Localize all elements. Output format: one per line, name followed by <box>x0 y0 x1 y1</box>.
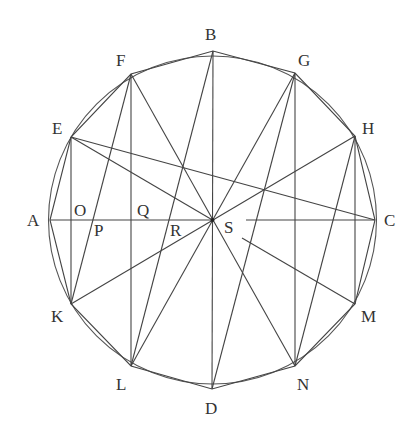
label-m: M <box>361 307 376 326</box>
label-e: E <box>52 119 62 138</box>
label-l: L <box>116 375 126 394</box>
label-s: S <box>224 218 233 237</box>
label-b: B <box>205 25 216 44</box>
center-point-s <box>211 218 215 222</box>
segment-ec <box>71 137 375 220</box>
segment-s-to-m <box>242 238 355 304</box>
label-o: O <box>74 201 86 220</box>
label-k: K <box>51 307 64 326</box>
geometry-diagram: ABCDEFGHKLMNOPQRS <box>0 0 418 434</box>
label-c: C <box>384 211 395 230</box>
label-a: A <box>27 211 40 230</box>
label-h: H <box>362 119 374 138</box>
label-q: Q <box>137 201 149 220</box>
label-p: P <box>94 221 103 240</box>
segment-fk <box>71 74 131 304</box>
label-d: D <box>205 399 217 418</box>
segment-hn <box>295 136 355 366</box>
label-r: R <box>170 221 182 240</box>
label-g: G <box>298 51 310 70</box>
label-n: N <box>297 375 309 394</box>
label-f: F <box>116 51 125 70</box>
